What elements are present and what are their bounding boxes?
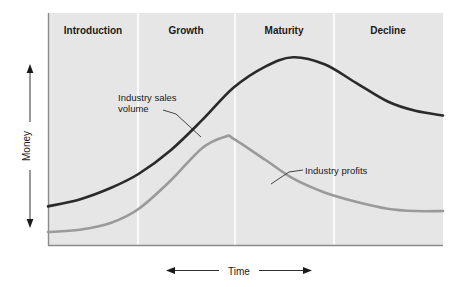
money-arrow-head-up [27,64,34,73]
stage-label-maturity: Maturity [265,25,304,36]
x-axis-label: Time [228,266,250,277]
time-arrow-head-right [303,267,312,274]
x-axis-annotation: Time [166,261,312,280]
stage-label-growth: Growth [169,25,204,36]
stage-label-introduction: Introduction [64,25,122,36]
chart-canvas: Introduction Growth Maturity Decline Ind… [0,0,453,287]
product-life-cycle-figure: Introduction Growth Maturity Decline Ind… [0,0,453,287]
sales-volume-label-line-2: volume [118,103,149,114]
sales-volume-label-line-1: Industry sales [118,92,177,103]
y-axis-annotation: Money [21,64,38,228]
y-axis-label: Money [21,131,32,161]
plot-background [48,13,443,246]
stage-label-decline: Decline [370,25,406,36]
money-arrow-head-down [27,219,34,228]
time-arrow-head-left [166,267,175,274]
profits-label: Industry profits [305,165,368,176]
